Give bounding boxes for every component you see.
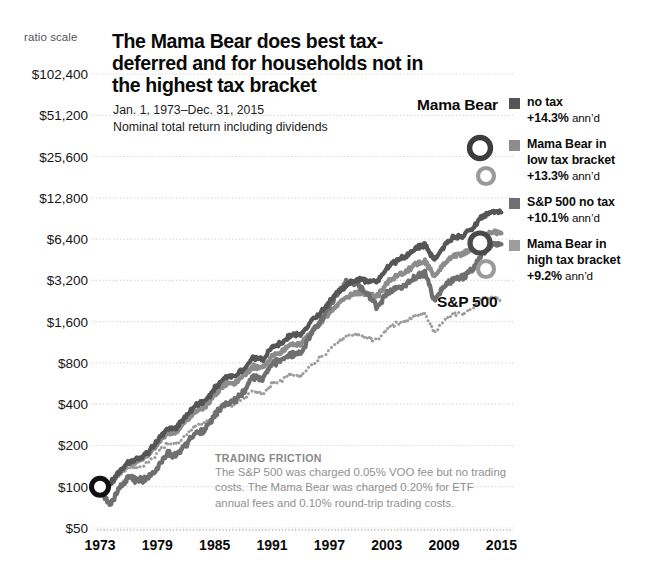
- legend-label-line: Mama Bear in: [527, 237, 620, 253]
- legend-swatch-icon: [509, 140, 520, 151]
- endpoint-marker-mama-bear-high-tax: [478, 261, 494, 277]
- legend-annualized-return: +9.2% ann’d: [527, 269, 620, 285]
- legend-annualized-return: +13.3% ann’d: [527, 169, 615, 185]
- y-axis-tick-label: $50: [65, 521, 88, 536]
- y-axis-tick-label: $800: [58, 355, 88, 370]
- legend-item[interactable]: Mama Bear inhigh tax bracket+9.2% ann’d: [509, 237, 661, 284]
- legend-label-line: S&P 500 no tax: [527, 195, 615, 211]
- series-label-sp500: S&P 500: [437, 293, 497, 311]
- y-axis-tick-label: $400: [58, 397, 88, 412]
- y-axis-tick-label: $3,200: [47, 273, 88, 288]
- y-axis-tick-label: $1,600: [47, 314, 88, 329]
- y-axis-tick-label: $12,800: [39, 190, 88, 205]
- x-axis-tick-label: 2009: [429, 537, 460, 553]
- chart-legend: no tax+14.3% ann’dMama Bear inlow tax br…: [509, 95, 661, 295]
- legend-swatch-icon: [509, 198, 520, 209]
- legend-label: S&P 500 no tax+10.1% ann’d: [527, 195, 615, 226]
- chart-root: ratio scale The Mama Bear does best tax-…: [0, 0, 670, 584]
- x-axis-tick-label: 1985: [199, 537, 230, 553]
- y-axis-tick-label: $6,400: [47, 232, 88, 247]
- legend-label: Mama Bear inhigh tax bracket+9.2% ann’d: [527, 237, 620, 284]
- legend-swatch-icon: [509, 98, 520, 109]
- legend-label-line: Mama Bear in: [527, 137, 615, 153]
- y-axis-tick-label: $200: [58, 438, 88, 453]
- legend-item[interactable]: Mama Bear inlow tax bracket+13.3% ann’d: [509, 137, 661, 184]
- x-axis-tick-label: 1997: [314, 537, 345, 553]
- endpoint-marker-mama-bear-no-tax: [470, 138, 491, 159]
- x-axis-tick-label: 2003: [371, 537, 402, 553]
- x-axis-tick-label: 1991: [256, 537, 287, 553]
- start-marker: [92, 478, 109, 495]
- x-axis-tick-label: 2015: [486, 537, 517, 553]
- legend-annualized-return: +10.1% ann’d: [527, 211, 615, 227]
- x-axis-tick-label: 1973: [84, 537, 115, 553]
- legend-label-line: low tax bracket: [527, 153, 615, 169]
- footnote-body: The S&P 500 was charged 0.05% VOO fee bu…: [215, 465, 510, 511]
- y-axis-tick-label: $25,600: [39, 149, 88, 164]
- footnote: TRADING FRICTION The S&P 500 was charged…: [215, 452, 510, 511]
- y-axis-tick-label: $102,400: [32, 67, 88, 82]
- legend-label-line: high tax bracket: [527, 253, 620, 269]
- legend-label: no tax+14.3% ann’d: [527, 95, 600, 126]
- y-axis-tick-label: $51,200: [39, 108, 88, 123]
- footnote-heading: TRADING FRICTION: [215, 452, 510, 464]
- endpoint-marker-mama-bear-low-tax: [478, 168, 494, 184]
- y-axis-tick-label: $100: [58, 479, 88, 494]
- legend-item[interactable]: no tax+14.3% ann’d: [509, 95, 661, 126]
- legend-label: Mama Bear inlow tax bracket+13.3% ann’d: [527, 137, 615, 184]
- legend-swatch-icon: [509, 240, 520, 251]
- legend-annualized-return: +14.3% ann’d: [527, 111, 600, 127]
- legend-item[interactable]: S&P 500 no tax+10.1% ann’d: [509, 195, 661, 226]
- series-label-mama-bear: Mama Bear: [417, 96, 498, 114]
- endpoint-marker-sp500-no-tax: [470, 233, 490, 253]
- x-axis-tick-label: 1979: [142, 537, 173, 553]
- legend-label-line: no tax: [527, 95, 600, 111]
